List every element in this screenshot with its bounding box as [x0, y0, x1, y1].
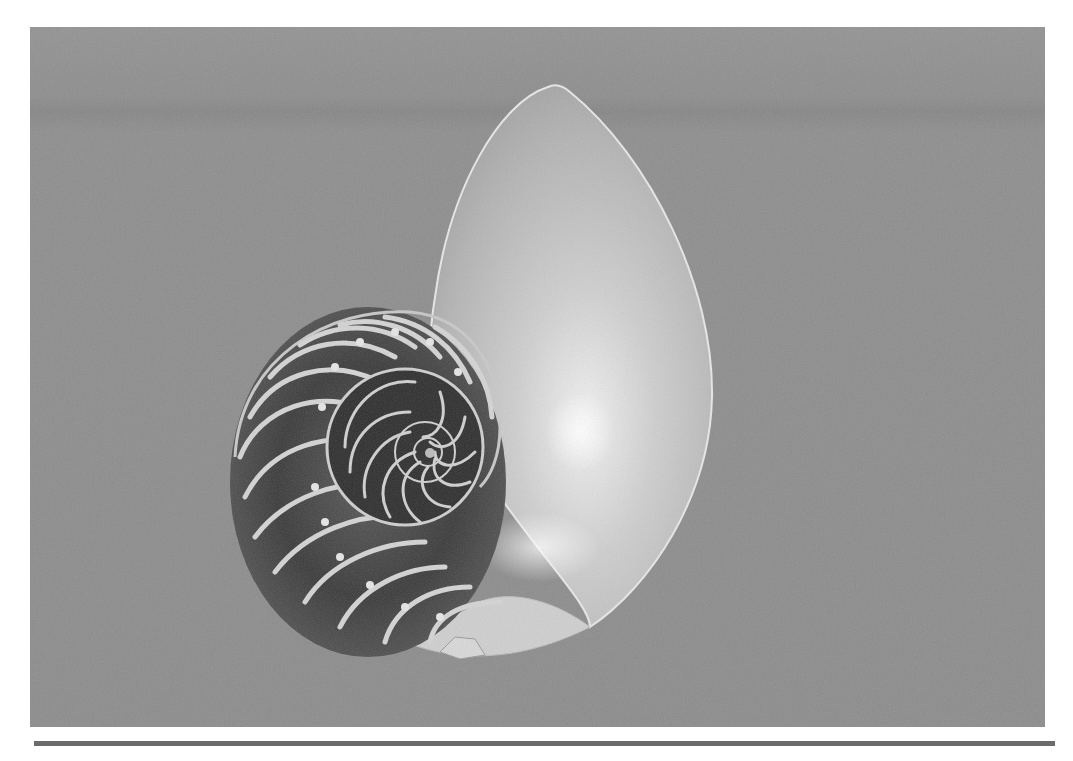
nautilus-shell-illustration: [30, 27, 1045, 727]
nautilus-photo: Black and white photograph of a sectione…: [30, 27, 1045, 727]
horizontal-divider: [34, 741, 1055, 746]
page: Black and white photograph of a sectione…: [0, 0, 1073, 761]
